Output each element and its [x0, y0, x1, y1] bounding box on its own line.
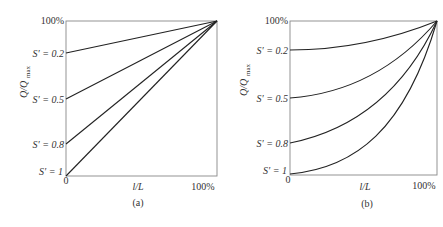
curve-b-s02 — [290, 21, 437, 50]
curve-a-s08 — [66, 21, 217, 144]
curve-label-a-s02: S′ = 0.2 — [33, 48, 64, 59]
x-origin-label-b: 0 — [286, 174, 291, 185]
curve-b-s08 — [290, 21, 437, 143]
x-end-label-a: 100% — [191, 181, 214, 192]
x-end-label-b: 100% — [412, 180, 435, 191]
caption-a: (a) — [132, 197, 143, 209]
curve-label-a-s1: S′ = 1 — [39, 166, 63, 177]
caption-b: (b) — [361, 198, 373, 210]
svg-text:Q/Q: Q/Q — [18, 80, 29, 98]
figure-canvas: 100% S′ = 0.2 S′ = 0.5 S′ = 0.8 S′ = 1 0… — [0, 0, 443, 227]
x-origin-label-a: 0 — [64, 175, 69, 186]
y-axis-label-b: Q/Q max — [238, 63, 252, 96]
svg-text:Q/Q: Q/Q — [238, 78, 249, 96]
x-axis-label-a: l/L — [132, 181, 144, 192]
svg-text:max: max — [244, 63, 252, 76]
x-axis-label-b: l/L — [359, 181, 371, 192]
panel-b: 100% S′ = 0.2 S′ = 0.5 S′ = 0.8 S′ = 1 0… — [238, 15, 437, 210]
curve-a-s05 — [66, 21, 217, 99]
curve-a-s02 — [66, 21, 217, 53]
y-axis-label-a: Q/Q max — [18, 65, 32, 98]
curve-label-b-s08: S′ = 0.8 — [257, 138, 288, 149]
curve-label-a-s05: S′ = 0.5 — [33, 94, 64, 105]
curve-label-a-s08: S′ = 0.8 — [33, 139, 64, 150]
y-top-label-a: 100% — [41, 15, 64, 26]
curve-label-b-s02: S′ = 0.2 — [257, 45, 288, 56]
svg-text:max: max — [24, 65, 32, 78]
curve-label-b-s1: S′ = 1 — [263, 165, 287, 176]
curve-a-s1 — [66, 21, 217, 176]
y-top-label-b: 100% — [265, 15, 288, 26]
curve-label-b-s05: S′ = 0.5 — [257, 93, 288, 104]
panel-a: 100% S′ = 0.2 S′ = 0.5 S′ = 0.8 S′ = 1 0… — [18, 15, 217, 209]
